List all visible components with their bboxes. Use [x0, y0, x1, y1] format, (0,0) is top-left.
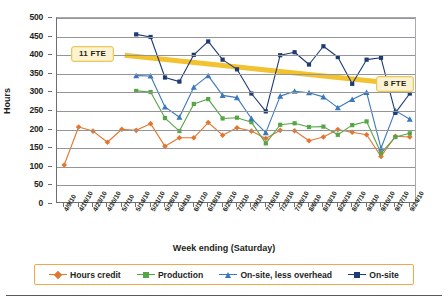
- y-axis-tick-mark: [48, 129, 52, 130]
- data-point: [349, 96, 355, 102]
- gridline: [57, 111, 415, 112]
- y-axis-tick-label: 250: [29, 105, 43, 115]
- data-point: [293, 121, 297, 125]
- data-point: [336, 133, 340, 137]
- legend-diamond-icon: [49, 270, 67, 279]
- data-point: [221, 116, 225, 120]
- series-hours-credit: [61, 120, 412, 168]
- y-axis-tick-mark: [48, 166, 52, 167]
- y-axis-tick-label: 300: [29, 86, 43, 96]
- legend-item[interactable]: Production: [137, 270, 203, 280]
- data-point: [163, 75, 167, 79]
- legend-item[interactable]: Hours credit: [49, 270, 121, 280]
- data-point: [206, 97, 210, 101]
- data-point: [148, 121, 154, 127]
- data-point: [321, 44, 325, 48]
- gridline: [57, 18, 415, 19]
- y-axis-tick-mark: [48, 203, 52, 204]
- data-point: [407, 116, 413, 122]
- data-point: [177, 135, 183, 141]
- data-point: [307, 62, 311, 66]
- data-point: [408, 131, 412, 135]
- data-point: [393, 135, 397, 139]
- data-point: [365, 119, 369, 123]
- y-axis-tick-label: 200: [29, 124, 43, 134]
- legend-label: Hours credit: [70, 270, 121, 280]
- chart-legend: Hours creditProductionOn-site, less over…: [34, 264, 414, 285]
- series-production: [134, 89, 412, 155]
- data-point: [177, 80, 181, 84]
- annotation-8-fte: 8 FTE: [376, 76, 415, 92]
- data-point: [221, 58, 225, 62]
- y-axis-tick-mark: [48, 36, 52, 37]
- data-point: [264, 141, 268, 145]
- y-axis-tick-label: 50: [34, 179, 43, 189]
- y-axis-tick-mark: [48, 17, 52, 18]
- y-axis-tick-label: 400: [29, 49, 43, 59]
- y-axis-tick-label: 500: [29, 12, 43, 22]
- y-axis-tick-label: 350: [29, 68, 43, 78]
- gridline: [57, 185, 415, 186]
- x-axis-labels: 4/9/104/16/104/23/104/30/105/7/105/14/10…: [56, 207, 416, 241]
- y-axis-tick-mark: [48, 54, 52, 55]
- y-axis-tick-mark: [48, 147, 52, 148]
- legend-label: On-site, less overhead: [240, 270, 332, 280]
- legend-label: On-site: [369, 270, 399, 280]
- y-axis-tick-label: 100: [29, 161, 43, 171]
- y-axis-tick-label: 450: [29, 31, 43, 41]
- data-point: [235, 116, 239, 120]
- data-point: [235, 67, 239, 71]
- plot-area: [56, 17, 416, 203]
- legend-item[interactable]: On-site: [348, 270, 399, 280]
- data-point: [379, 56, 383, 60]
- y-axis-tick-mark: [48, 110, 52, 111]
- legend-square-icon: [348, 270, 366, 279]
- y-axis-tick-mark: [48, 73, 52, 74]
- y-axis-tick-label: 0: [38, 198, 43, 208]
- y-axis-title: Hours: [2, 88, 12, 114]
- data-point: [206, 39, 210, 43]
- y-axis-tick-mark: [48, 184, 52, 185]
- data-point: [321, 125, 325, 129]
- data-point: [192, 102, 196, 106]
- gridline: [57, 37, 415, 38]
- data-point: [307, 125, 311, 129]
- legend-item[interactable]: On-site, less overhead: [219, 270, 332, 280]
- data-point: [379, 151, 383, 155]
- gridline: [57, 92, 415, 93]
- annotation-11-fte: 11 FTE: [71, 46, 114, 62]
- legend-label: Production: [158, 270, 203, 280]
- gridline: [57, 130, 415, 131]
- data-point: [278, 123, 282, 127]
- chart-figure: 050100150200250300350400450500 Hours 4/9…: [0, 0, 448, 303]
- footer-divider: [6, 295, 442, 296]
- gridline: [57, 74, 415, 75]
- gridline: [57, 167, 415, 168]
- y-axis-tick-mark: [48, 91, 52, 92]
- legend-square-icon: [137, 270, 155, 279]
- data-point: [163, 116, 167, 120]
- data-point: [350, 123, 354, 127]
- data-point: [365, 58, 369, 62]
- x-axis-title: Week ending (Saturday): [0, 243, 448, 253]
- data-point: [350, 82, 354, 86]
- y-axis-tick-label: 150: [29, 142, 43, 152]
- data-point: [162, 104, 168, 110]
- gridline: [57, 148, 415, 149]
- data-point: [293, 50, 297, 54]
- data-point: [321, 134, 327, 140]
- legend-triangle-icon: [219, 270, 237, 279]
